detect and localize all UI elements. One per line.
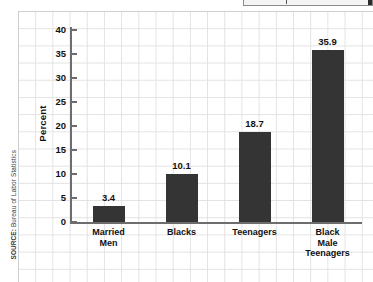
y-axis-tick-label: 25	[40, 96, 66, 107]
bar-value-label: 35.9	[298, 36, 358, 47]
x-axis-line	[70, 222, 362, 224]
y-axis-tick-label: 10	[40, 168, 66, 179]
bar[interactable]	[93, 206, 125, 222]
y-axis-tick-label: 30	[40, 72, 66, 83]
bar-value-label: 3.4	[79, 192, 139, 203]
bar[interactable]	[239, 132, 271, 222]
y-axis-tick	[71, 149, 77, 150]
y-axis-tick	[71, 53, 77, 54]
x-axis-category-label: Blacks	[148, 227, 216, 238]
y-axis-tick	[71, 221, 77, 222]
bar[interactable]	[312, 50, 344, 222]
x-axis-category-label: MarriedMen	[75, 227, 143, 248]
y-axis-tick	[71, 197, 77, 198]
bar-value-label: 18.7	[225, 118, 285, 129]
bar[interactable]	[166, 174, 198, 222]
y-axis-tick-label: 35	[40, 48, 66, 59]
bar-chart: Percent 0510152025303540 3.4MarriedMen10…	[0, 0, 373, 282]
y-axis-tick-label: 20	[40, 120, 66, 131]
y-axis-tick-label: 0	[40, 216, 66, 227]
x-axis-category-label: BlackMaleTeenagers	[294, 227, 362, 259]
y-axis-tick	[71, 173, 77, 174]
y-axis-tick	[71, 77, 77, 78]
y-axis-tick-label: 40	[40, 24, 66, 35]
bar-value-label: 10.1	[152, 160, 212, 171]
y-axis-tick-label: 15	[40, 144, 66, 155]
y-axis-tick	[71, 125, 77, 126]
y-axis-tick	[71, 101, 77, 102]
x-axis-category-label: Teenagers	[221, 227, 289, 238]
y-axis-tick	[71, 29, 77, 30]
y-axis-tick-label: 5	[40, 192, 66, 203]
